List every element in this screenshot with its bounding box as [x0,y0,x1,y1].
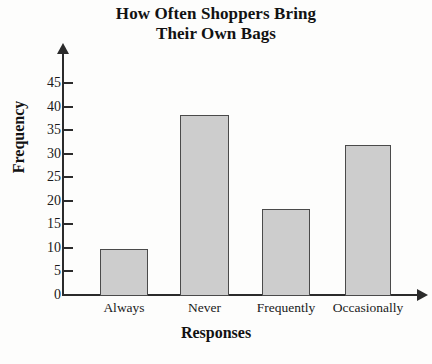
y-axis-tick [64,294,73,296]
y-axis-tick [64,129,73,131]
y-axis-arrow-icon [57,43,69,54]
y-axis-tick [64,200,73,202]
x-axis-tick-label: Always [103,300,144,316]
bar-chart: How Often Shoppers Bring Their Own Bags … [0,0,432,364]
y-axis-tick [64,247,73,249]
y-axis-tick-label: 10 [21,241,61,255]
x-axis-tick-label: Never [188,300,221,316]
y-axis-tick [64,270,73,272]
bar [100,249,148,296]
bar [180,115,229,296]
x-axis-tick-label: Occasionally [333,300,403,316]
y-axis-tick-label: 20 [21,194,61,208]
bar [345,145,391,296]
y-axis-tick-label: 15 [21,217,61,231]
x-axis-tick-label: Frequently [257,300,316,316]
y-axis-line [62,52,64,296]
x-axis-arrow-icon [417,289,428,301]
y-axis-tick [64,153,73,155]
plot-area: 051015202530354045 AlwaysNeverFrequently… [0,0,432,364]
y-axis-tick [64,223,73,225]
y-axis-tick [64,106,73,108]
y-axis-title: Frequency [10,82,28,192]
bar [262,209,310,296]
y-axis-tick-label: 0 [21,288,61,302]
y-axis-tick [64,176,73,178]
x-axis-title: Responses [0,324,432,342]
y-axis-tick-label: 5 [21,264,61,278]
y-axis-tick [64,82,73,84]
